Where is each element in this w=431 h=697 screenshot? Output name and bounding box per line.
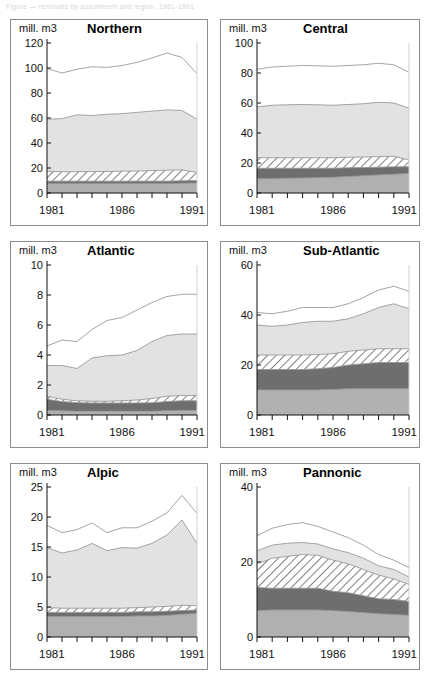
- y-tick-label: 60: [241, 97, 253, 109]
- figure-caption: Figure — removals by assortment and regi…: [0, 0, 431, 13]
- x-tick-label: 1986: [109, 426, 135, 438]
- panel-title: Atlantic: [87, 243, 135, 258]
- y-axis-unit-label: mill. m3: [229, 22, 267, 34]
- y-tick-label: 15: [31, 541, 43, 553]
- y-axis-unit-label: mill. m3: [229, 244, 267, 256]
- y-tick-label: 20: [241, 556, 253, 568]
- y-tick-label: 40: [31, 137, 43, 149]
- chart-panel-grid: mill. m3Northern020406080100120198119861…: [0, 15, 431, 697]
- x-tick-label: 1981: [249, 204, 275, 216]
- plot-area: 0246810198119861991: [11, 257, 207, 449]
- x-tick-label: 1986: [320, 648, 346, 660]
- y-tick-label: 0: [247, 409, 253, 421]
- chart-panel-atlantic: mill. m3Atlantic0246810198119861991: [10, 241, 208, 448]
- x-tick-label: 1991: [179, 426, 205, 438]
- stacked-area-chart: 0510152025198119861991: [11, 479, 207, 671]
- y-axis-unit-label: mill. m3: [19, 244, 57, 256]
- chart-panel-sub-atlantic: mill. m3Sub-Atlantic0204060198119861991: [220, 241, 420, 448]
- y-axis-unit-label: mill. m3: [229, 466, 267, 478]
- y-tick-label: 60: [31, 112, 43, 124]
- x-tick-label: 1981: [249, 426, 275, 438]
- y-tick-label: 20: [31, 162, 43, 174]
- y-tick-label: 80: [241, 67, 253, 79]
- x-tick-label: 1991: [179, 204, 205, 216]
- plot-area: 02040198119861991: [221, 479, 419, 671]
- y-tick-label: 4: [37, 349, 43, 361]
- x-tick-label: 1986: [320, 426, 346, 438]
- y-tick-label: 5: [37, 601, 43, 613]
- panel-title: Central: [303, 21, 348, 36]
- y-tick-label: 0: [247, 631, 253, 643]
- y-tick-label: 2: [37, 379, 43, 391]
- panel-title: Sub-Atlantic: [303, 243, 380, 258]
- y-tick-label: 25: [31, 481, 43, 493]
- panel-title: Pannonic: [303, 465, 362, 480]
- plot-area: 0510152025198119861991: [11, 479, 207, 671]
- plot-area: 020406080100120198119861991: [11, 35, 207, 227]
- y-tick-label: 40: [241, 127, 253, 139]
- y-tick-label: 20: [31, 511, 43, 523]
- panel-title: Northern: [87, 21, 142, 36]
- chart-panel-alpic: mill. m3Alpic0510152025198119861991: [10, 463, 208, 670]
- stacked-area-chart: 020406080100198119861991: [221, 35, 419, 227]
- y-tick-label: 40: [241, 309, 253, 321]
- y-axis-unit-label: mill. m3: [19, 22, 57, 34]
- x-tick-label: 1991: [391, 648, 417, 660]
- stacked-area-chart: 0204060198119861991: [221, 257, 419, 449]
- y-tick-label: 20: [241, 157, 253, 169]
- plot-area: 0204060198119861991: [221, 257, 419, 449]
- x-tick-label: 1986: [320, 204, 346, 216]
- y-axis-unit-label: mill. m3: [19, 466, 57, 478]
- panel-title: Alpic: [87, 465, 119, 480]
- x-tick-label: 1981: [39, 204, 65, 216]
- x-tick-label: 1981: [249, 648, 275, 660]
- chart-panel-central: mill. m3Central020406080100198119861991: [220, 19, 420, 226]
- area-band-layer-1: [257, 389, 409, 415]
- y-tick-label: 0: [37, 187, 43, 199]
- y-tick-label: 100: [25, 62, 43, 74]
- x-tick-label: 1986: [109, 204, 135, 216]
- chart-panel-pannonic: mill. m3Pannonic02040198119861991: [220, 463, 420, 670]
- y-tick-label: 8: [37, 289, 43, 301]
- y-tick-label: 60: [241, 259, 253, 271]
- y-tick-label: 40: [241, 481, 253, 493]
- y-tick-label: 0: [37, 409, 43, 421]
- stacked-area-chart: 02040198119861991: [221, 479, 419, 671]
- x-tick-label: 1991: [179, 648, 205, 660]
- y-tick-label: 20: [241, 359, 253, 371]
- chart-panel-northern: mill. m3Northern020406080100120198119861…: [10, 19, 208, 226]
- plot-area: 020406080100198119861991: [221, 35, 419, 227]
- y-tick-label: 10: [31, 259, 43, 271]
- y-tick-label: 80: [31, 87, 43, 99]
- x-tick-label: 1981: [39, 648, 65, 660]
- y-tick-label: 6: [37, 319, 43, 331]
- area-band-layer-1: [47, 614, 197, 637]
- y-tick-label: 120: [25, 37, 43, 49]
- x-tick-label: 1986: [109, 648, 135, 660]
- y-tick-label: 0: [247, 187, 253, 199]
- stacked-area-chart: 020406080100120198119861991: [11, 35, 207, 227]
- stacked-area-chart: 0246810198119861991: [11, 257, 207, 449]
- x-tick-label: 1991: [391, 204, 417, 216]
- x-tick-label: 1991: [391, 426, 417, 438]
- area-band-layer-1: [47, 183, 197, 193]
- y-tick-label: 0: [37, 631, 43, 643]
- y-tick-label: 10: [31, 571, 43, 583]
- y-tick-label: 100: [235, 37, 253, 49]
- x-tick-label: 1981: [39, 426, 65, 438]
